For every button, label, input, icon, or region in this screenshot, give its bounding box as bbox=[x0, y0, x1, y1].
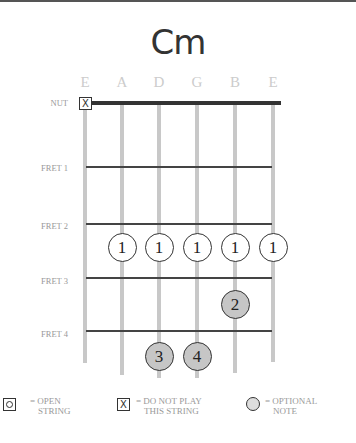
finger-dot: 1 bbox=[108, 233, 137, 262]
legend-mute-line1: = DO NOT PLAY bbox=[136, 396, 202, 406]
string-name-d: D bbox=[149, 74, 169, 91]
top-rule bbox=[0, 0, 356, 2]
nut-label: NUT bbox=[0, 98, 68, 108]
legend-mute: = DO NOT PLAY THIS STRING bbox=[136, 396, 202, 416]
fret-3-label: FRET 3 bbox=[0, 276, 68, 286]
string-low-e bbox=[83, 103, 87, 363]
legend-open-line2: STRING bbox=[30, 406, 71, 416]
legend-optional-line2: NOTE bbox=[265, 406, 317, 416]
fret-4-label: FRET 4 bbox=[0, 329, 68, 339]
string-name-high-e: E bbox=[263, 74, 283, 91]
finger-dot: 1 bbox=[221, 233, 250, 262]
legend-mute-line2: THIS STRING bbox=[136, 406, 202, 416]
nut bbox=[80, 101, 281, 105]
finger-dot: 2 bbox=[221, 290, 250, 319]
legend-open-line1: = OPEN bbox=[30, 396, 71, 406]
string-name-g: G bbox=[187, 74, 207, 91]
fret-1-line bbox=[86, 166, 272, 168]
open-string-icon bbox=[3, 398, 16, 411]
fret-4-line bbox=[86, 330, 272, 332]
finger-dot: 1 bbox=[183, 233, 212, 262]
legend-optional: = OPTIONAL NOTE bbox=[265, 396, 317, 416]
finger-dot: 4 bbox=[183, 342, 212, 371]
chord-title: Cm bbox=[0, 22, 356, 62]
legend-optional-line1: = OPTIONAL bbox=[265, 396, 317, 406]
fret-3-line bbox=[86, 277, 272, 279]
do-not-play-icon: X bbox=[117, 398, 130, 411]
finger-dot: 3 bbox=[145, 342, 174, 371]
optional-note-icon bbox=[246, 397, 260, 411]
finger-dot: 1 bbox=[145, 233, 174, 262]
finger-dot: 1 bbox=[259, 233, 288, 262]
legend-open: = OPEN STRING bbox=[30, 396, 71, 416]
string-name-low-e: E bbox=[75, 74, 95, 91]
fret-2-line bbox=[86, 223, 272, 225]
fret-2-label: FRET 2 bbox=[0, 221, 68, 231]
string-name-b: B bbox=[225, 74, 245, 91]
string-name-a: A bbox=[112, 74, 132, 91]
fret-1-label: FRET 1 bbox=[0, 163, 68, 173]
do-not-play-marker: X bbox=[79, 97, 92, 110]
